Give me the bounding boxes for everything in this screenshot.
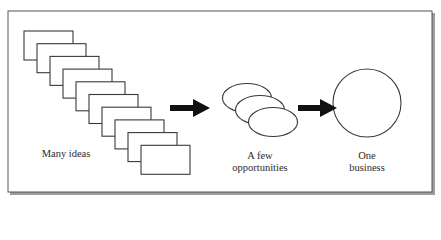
label-a-few-opportunities: A few opportunities xyxy=(222,150,298,174)
label-line: opportunities xyxy=(222,162,298,174)
business-circle xyxy=(333,69,401,137)
idea-card xyxy=(141,145,190,174)
label-line: Many ideas xyxy=(30,148,102,160)
label-many-ideas: Many ideas xyxy=(30,148,102,160)
one-business-circle xyxy=(333,69,401,137)
opportunity-ellipse xyxy=(249,108,298,137)
label-one-business: One business xyxy=(335,150,399,174)
label-line: business xyxy=(335,162,399,174)
label-line: One xyxy=(335,150,399,162)
label-line: A few xyxy=(222,150,298,162)
